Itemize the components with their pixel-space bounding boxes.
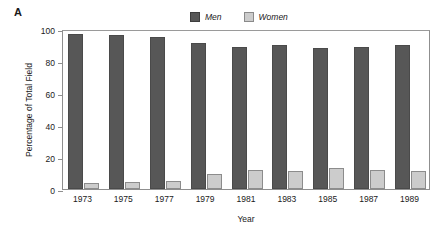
y-tick-label: 0 <box>50 185 55 197</box>
panel-label: A <box>14 7 22 18</box>
bar-men-1973 <box>68 34 83 189</box>
bar-women-1985 <box>329 168 344 189</box>
bar-women-1977 <box>166 181 181 189</box>
y-tick-label: 60 <box>46 89 55 101</box>
x-tick-label-1985: 1985 <box>307 193 348 205</box>
bar-group-1975 <box>109 31 140 189</box>
bar-women-1983 <box>288 171 303 189</box>
legend-entry-women: Women <box>244 12 288 22</box>
bar-men-1983 <box>272 45 287 189</box>
bar-group-1987 <box>354 31 385 189</box>
y-tick-label: 80 <box>46 57 55 69</box>
bar-men-1989 <box>395 45 410 189</box>
x-tick-label-1989: 1989 <box>389 193 430 205</box>
y-tick-label: 40 <box>46 121 55 133</box>
plot-area: 0 20 40 60 80 100 <box>62 30 430 190</box>
bar-group-1985 <box>313 31 344 189</box>
legend-swatch-men-icon <box>190 12 200 22</box>
bar-women-1973 <box>84 183 99 189</box>
legend-entry-men: Men <box>190 12 222 22</box>
legend-label-men: Men <box>205 13 222 22</box>
bar-men-1979 <box>191 43 206 189</box>
x-tick-label-1975: 1975 <box>103 193 144 205</box>
y-axis-title: Percentage of Total Field <box>22 30 36 190</box>
x-tick-label-1983: 1983 <box>266 193 307 205</box>
chart-legend: Men Women <box>190 10 288 24</box>
y-tick-label: 100 <box>41 25 55 37</box>
bar-group-1983 <box>272 31 303 189</box>
bar-women-1975 <box>125 182 140 189</box>
figure-panel-a: A Men Women Percentage of Total Field 0 … <box>0 0 438 237</box>
bar-group-1989 <box>395 31 426 189</box>
x-tick-label-1979: 1979 <box>185 193 226 205</box>
bar-group-1979 <box>191 31 222 189</box>
bar-men-1975 <box>109 35 124 189</box>
x-tick-label-1973: 1973 <box>62 193 103 205</box>
bar-women-1981 <box>248 170 263 189</box>
y-tick-mark <box>58 191 63 192</box>
bar-series-container <box>63 31 429 189</box>
x-tick-label-1987: 1987 <box>348 193 389 205</box>
bar-women-1979 <box>207 174 222 189</box>
legend-label-women: Women <box>259 13 288 22</box>
bar-men-1981 <box>232 47 247 189</box>
bar-men-1977 <box>150 37 165 189</box>
bar-group-1981 <box>232 31 263 189</box>
x-tick-label-1981: 1981 <box>226 193 267 205</box>
y-tick-label: 20 <box>46 153 55 165</box>
bar-women-1987 <box>370 170 385 189</box>
legend-swatch-women-icon <box>244 12 254 22</box>
bar-group-1973 <box>68 31 99 189</box>
bar-women-1989 <box>411 171 426 189</box>
x-axis-title: Year <box>62 215 430 224</box>
bar-men-1985 <box>313 48 328 189</box>
bar-men-1987 <box>354 47 369 189</box>
x-tick-label-1977: 1977 <box>144 193 185 205</box>
bar-group-1977 <box>150 31 181 189</box>
